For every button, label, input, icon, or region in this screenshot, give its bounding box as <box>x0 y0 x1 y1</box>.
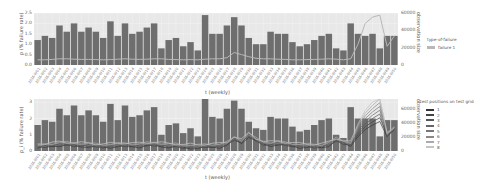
bar <box>64 32 70 65</box>
bar <box>275 34 281 65</box>
bar <box>202 15 208 65</box>
top-chart-panel: p (% failure rate) 0.00.51.01.52.02.5 02… <box>0 0 488 95</box>
bar <box>326 34 332 65</box>
bar <box>282 34 288 65</box>
bar <box>158 48 164 65</box>
top-legend-title: type-of-failure <box>427 37 457 42</box>
bar <box>202 99 208 151</box>
legend-item: failure 1 <box>427 45 457 50</box>
bar <box>224 25 230 65</box>
bar <box>311 40 317 65</box>
bar <box>377 48 383 65</box>
right-y-tick-label: 0 <box>401 62 404 67</box>
top-legend: type-of-failure failure 1 <box>427 37 457 50</box>
legend-swatch-icon <box>426 130 434 132</box>
legend-swatch-icon <box>426 146 434 148</box>
bar <box>362 36 368 65</box>
y-tick-label: 2.0 <box>18 20 32 25</box>
bar <box>114 36 120 65</box>
bottom-x-axis-label: t (weekly) <box>205 174 230 180</box>
bar <box>238 25 244 65</box>
bar <box>267 32 273 65</box>
bar <box>165 40 171 65</box>
top-plot-area <box>34 13 398 65</box>
right-y-tick-label: 0 <box>401 148 404 153</box>
legend-swatch-icon <box>426 141 434 143</box>
top-right-y-axis-label: observation size <box>416 12 422 53</box>
legend-label: 8 <box>437 145 440 150</box>
bottom-legend: test positions on test grid 12345678 <box>420 99 474 150</box>
legend-label: 1 <box>437 107 440 112</box>
legend-swatch-icon <box>426 109 434 111</box>
legend-label: 4 <box>437 123 440 128</box>
legend-label: 2 <box>437 113 440 118</box>
bottom-chart-panel: p_i (% failure rate) 0123 02000040000600… <box>0 95 488 189</box>
bar <box>391 36 397 65</box>
y-tick-label: 2.5 <box>18 10 32 15</box>
bar <box>107 21 113 65</box>
bar <box>260 44 266 65</box>
right-y-tick-label: 20000 <box>401 45 415 50</box>
bottom-y-axis-label: p_i (% failure rate) <box>18 107 24 153</box>
legend-swatch-icon <box>426 114 434 116</box>
bar <box>231 101 237 151</box>
bar <box>78 32 84 65</box>
bottom-legend-title: test positions on test grid <box>420 99 474 104</box>
legend-swatch-icon <box>426 136 434 138</box>
bar <box>173 38 179 65</box>
bar <box>304 44 310 65</box>
bar <box>253 44 259 65</box>
bar <box>129 34 135 65</box>
bar <box>195 50 201 65</box>
bar <box>216 34 222 65</box>
bar <box>238 109 244 151</box>
bar <box>180 46 186 65</box>
bar <box>100 38 106 65</box>
legend-item: 8 <box>420 145 474 150</box>
y-tick-label: 0.0 <box>18 62 32 67</box>
bar <box>209 34 215 65</box>
legend-label: 3 <box>437 118 440 123</box>
bar <box>289 127 295 151</box>
y-tick-label: 1.5 <box>18 31 32 36</box>
bar <box>187 42 193 65</box>
bottom-plot-area <box>34 99 398 151</box>
right-y-tick-label: 40000 <box>401 120 415 125</box>
legend-label: failure 1 <box>438 45 455 50</box>
bar <box>275 119 281 152</box>
bar <box>34 40 40 65</box>
bar <box>377 136 383 151</box>
bar <box>369 34 375 65</box>
right-y-tick-label: 60000 <box>401 106 415 111</box>
bar <box>318 36 324 65</box>
bar <box>362 119 368 152</box>
y-tick-label: 3 <box>18 99 32 104</box>
right-y-tick-label: 60000 <box>401 10 415 15</box>
bar <box>42 36 48 65</box>
bar <box>333 48 339 65</box>
bar <box>231 17 237 65</box>
bar <box>391 120 397 151</box>
bar <box>136 32 142 65</box>
right-y-tick-label: 40000 <box>401 27 415 32</box>
legend-label: 5 <box>437 129 440 134</box>
bar <box>384 36 390 65</box>
legend-swatch-icon <box>427 46 435 49</box>
y-tick-label: 2 <box>18 116 32 121</box>
legend-swatch-icon <box>426 119 434 121</box>
legend-label: 7 <box>437 140 440 145</box>
y-tick-label: 1.0 <box>18 41 32 46</box>
bar <box>49 38 55 65</box>
y-tick-label: 0 <box>18 148 32 153</box>
bar <box>289 42 295 65</box>
bar <box>296 46 302 65</box>
bar <box>340 50 346 65</box>
y-tick-label: 0.5 <box>18 52 32 57</box>
legend-label: 6 <box>437 134 440 139</box>
right-y-tick-label: 20000 <box>401 134 415 139</box>
bar <box>246 38 252 65</box>
legend-swatch-icon <box>426 125 434 127</box>
y-tick-label: 1 <box>18 132 32 137</box>
